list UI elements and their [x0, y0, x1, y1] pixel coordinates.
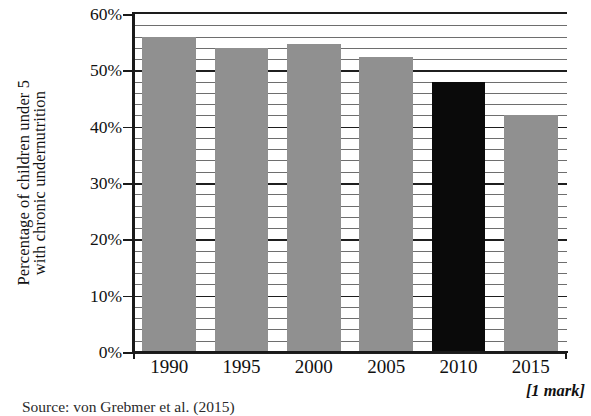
gridline-minor — [133, 273, 567, 274]
gridline-minor — [133, 37, 567, 38]
y-axis-title-line-2: with chronic undernutrition — [32, 91, 49, 275]
y-tick-label: 60% — [90, 4, 122, 25]
gridline-minor — [133, 48, 567, 49]
gridline-minor — [133, 194, 567, 195]
gridline-major — [133, 70, 567, 72]
gridline-major — [133, 296, 567, 298]
gridline-minor — [133, 341, 567, 342]
gridline-minor — [133, 59, 567, 60]
y-tick-mark — [123, 70, 132, 72]
y-tick-mark — [123, 296, 132, 298]
x-tick-label-1995: 1995 — [223, 356, 261, 378]
gridline-minor — [133, 318, 567, 319]
gridline-minor — [133, 25, 567, 26]
gridline-minor — [133, 206, 567, 207]
gridline-minor — [133, 217, 567, 218]
bar-2005 — [359, 57, 413, 352]
y-tick-label: 0% — [99, 342, 122, 363]
y-tick-label: 10% — [90, 285, 122, 306]
y-tick-label: 50% — [90, 60, 122, 81]
source-caption: Source: von Grebmer et al. (2015) — [22, 398, 235, 416]
y-tick-label: 40% — [90, 116, 122, 137]
gridline-minor — [133, 329, 567, 330]
y-axis-line — [132, 12, 135, 354]
y-axis-title: Percentage of children under 5 with chro… — [8, 14, 56, 352]
x-axis-line — [132, 351, 568, 354]
y-tick-mark — [123, 239, 132, 241]
x-tick-label-2015: 2015 — [512, 356, 550, 378]
axis-top-line — [133, 12, 567, 14]
x-tick-label-2010: 2010 — [440, 356, 478, 378]
bar-2015 — [504, 115, 558, 352]
gridline-minor — [133, 104, 567, 105]
gridline-minor — [133, 284, 567, 285]
gridline-minor — [133, 307, 567, 308]
x-tick-label-2005: 2005 — [367, 356, 405, 378]
y-tick-mark — [123, 127, 132, 129]
bar-2000 — [287, 44, 341, 352]
gridline-major — [133, 127, 567, 129]
gridline-minor — [133, 160, 567, 161]
y-tick-mark — [123, 352, 132, 354]
bar-1995 — [215, 48, 269, 352]
gridline-minor — [133, 93, 567, 94]
gridline-minor — [133, 172, 567, 173]
x-tick-label-2000: 2000 — [295, 356, 333, 378]
gridline-minor — [133, 228, 567, 229]
mark-annotation: [1 mark] — [526, 381, 585, 401]
y-tick-label: 20% — [90, 229, 122, 250]
x-tick-label-1990: 1990 — [150, 356, 188, 378]
gridline-minor — [133, 138, 567, 139]
gridline-minor — [133, 115, 567, 116]
gridline-major — [133, 239, 567, 241]
y-axis-tick-labels: 0%10%20%30%40%50%60% — [56, 0, 126, 414]
gridline-major — [133, 183, 567, 185]
plot-area — [133, 14, 567, 352]
bar-1990 — [142, 37, 196, 352]
gridline-minor — [133, 149, 567, 150]
gridline-minor — [133, 82, 567, 83]
y-tick-label: 30% — [90, 173, 122, 194]
gridline-minor — [133, 262, 567, 263]
bar-2010 — [432, 82, 486, 352]
y-tick-mark — [123, 14, 132, 16]
y-tick-mark — [123, 183, 132, 185]
x-axis-tick-labels: 199019952000200520102015 — [133, 356, 567, 382]
gridline-minor — [133, 251, 567, 252]
